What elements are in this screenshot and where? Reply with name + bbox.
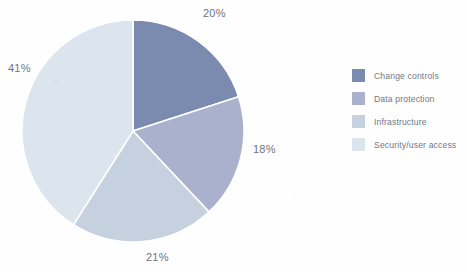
slice-label-security-user-access: 41% [8,62,31,74]
legend-swatch-icon [352,69,365,82]
slice-label-data-protection: 18% [253,143,276,155]
chart-legend: Change controlsData protectionInfrastruc… [352,64,467,156]
legend-swatch-icon [352,138,365,151]
pie-slice-group [22,20,244,242]
legend-swatch-icon [352,92,365,105]
legend-label: Change controls [374,71,439,81]
legend-item: Change controls [352,64,467,87]
legend-label: Security/user access [374,140,456,150]
pie-chart-svg [0,0,300,272]
legend-item: Infrastructure [352,110,467,133]
legend-label: Infrastructure [374,117,427,127]
slice-label-infrastructure: 21% [146,251,169,263]
pie-chart-figure: 20% 18% 21% 41% Change controlsData prot… [0,0,467,272]
slice-label-change-controls: 20% [203,7,226,19]
legend-item: Security/user access [352,133,467,156]
legend-label: Data protection [374,94,435,104]
legend-item: Data protection [352,87,467,110]
legend-swatch-icon [352,115,365,128]
pie-chart-plot-area: 20% 18% 21% 41% [0,0,300,272]
